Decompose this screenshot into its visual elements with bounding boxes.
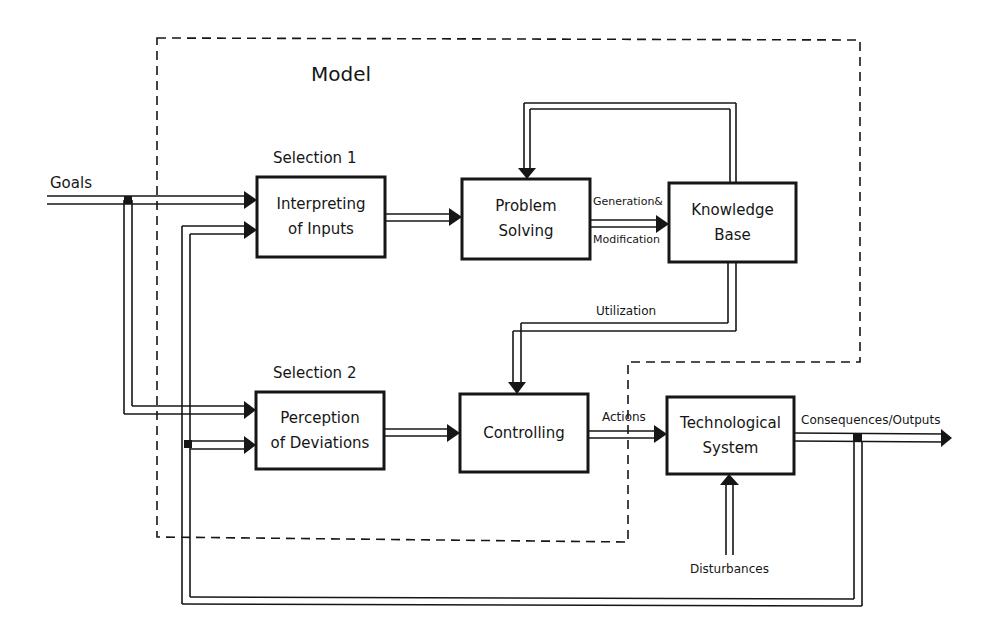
- model-label: Model: [311, 62, 371, 86]
- perception-text: Perception of Deviations: [256, 392, 384, 469]
- knowledge-base-line1: Knowledge: [691, 198, 773, 223]
- generation-label: Generation&: [593, 195, 663, 208]
- junction-dot: [124, 196, 132, 204]
- problem-solving-line1: Problem: [495, 194, 556, 219]
- knowledge-base-text: Knowledge Base: [669, 183, 796, 262]
- actions-label: Actions: [602, 410, 646, 424]
- problem-solving-line2: Solving: [499, 219, 554, 244]
- arrowhead: [244, 191, 257, 209]
- technological-line2: System: [703, 436, 759, 461]
- knowledge-base-line2: Base: [714, 223, 751, 248]
- selection-2-label: Selection 2: [273, 364, 356, 382]
- technological-text: Technological System: [667, 397, 794, 474]
- consequences-label: Consequences/Outputs: [801, 413, 940, 427]
- utilization-label: Utilization: [596, 304, 656, 318]
- perception-line2: of Deviations: [271, 431, 370, 456]
- interpreting-text: Interpreting of Inputs: [257, 177, 385, 257]
- modification-label: Modification: [593, 233, 660, 246]
- controlling-text: Controlling: [460, 394, 588, 472]
- goals-label: Goals: [50, 174, 92, 192]
- perception-line1: Perception: [280, 406, 359, 431]
- problem-solving-text: Problem Solving: [462, 179, 590, 259]
- disturbances-label: Disturbances: [690, 562, 769, 576]
- controlling-line1: Controlling: [483, 421, 565, 446]
- interpreting-line2: of Inputs: [288, 217, 354, 242]
- interpreting-line1: Interpreting: [277, 192, 366, 217]
- technological-line1: Technological: [680, 411, 781, 436]
- junction-dot: [853, 433, 862, 442]
- diagram-canvas: [0, 0, 992, 639]
- selection-1-label: Selection 1: [273, 149, 356, 167]
- junction-dot: [184, 440, 192, 448]
